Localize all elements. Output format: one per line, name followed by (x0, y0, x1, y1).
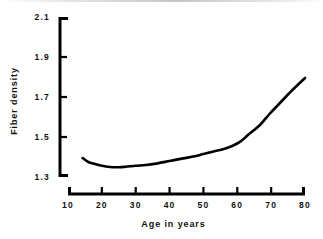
x-axis-title: Age in years (0, 219, 323, 229)
x-axis-spine (68, 187, 305, 194)
y-tick-label-2-1: 2.1 (20, 12, 50, 22)
x-tick-label-40: 40 (157, 200, 183, 210)
y-axis-title: Fiber density (9, 61, 19, 141)
x-tick-label-20: 20 (89, 200, 115, 210)
x-tick-label-80: 80 (292, 200, 318, 210)
data-series-fiber-density (83, 78, 305, 167)
y-tick-label-1-3: 1.3 (20, 172, 50, 182)
x-tick-label-70: 70 (258, 200, 284, 210)
y-tick-label-1-9: 1.9 (20, 52, 50, 62)
y-tick-label-1-5: 1.5 (20, 132, 50, 142)
x-tick-label-30: 30 (123, 200, 149, 210)
x-tick-label-50: 50 (190, 200, 216, 210)
y-tick-label-1-7: 1.7 (20, 92, 50, 102)
x-tick-label-60: 60 (224, 200, 250, 210)
x-tick-label-10: 10 (55, 200, 81, 210)
chart-figure: 1.31.51.71.92.1 1020304050607080 Fiber d… (0, 0, 323, 239)
